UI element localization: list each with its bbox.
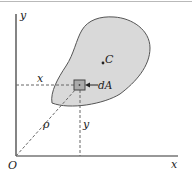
x-distance-label: x: [37, 72, 44, 85]
rho-label: ρ: [42, 118, 50, 131]
origin-label: O: [8, 159, 17, 172]
da-label: dA: [98, 79, 113, 91]
da-element-center: [79, 84, 81, 86]
area-moment-diagram: y x O C dA x y ρ: [0, 0, 192, 173]
centroid-label: C: [105, 53, 114, 66]
centroid-point: [102, 62, 105, 65]
area-region: [52, 17, 150, 106]
x-axis-label: x: [171, 158, 178, 171]
y-axis-label: y: [19, 9, 27, 22]
y-distance-label: y: [82, 118, 90, 131]
